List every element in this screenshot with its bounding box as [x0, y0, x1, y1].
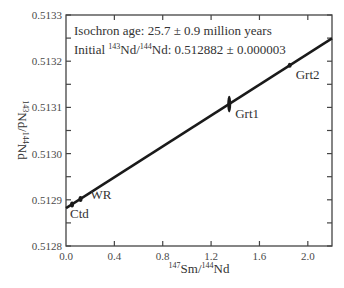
- data-point-wr: WR: [79, 187, 112, 202]
- data-point-grt2: Grt2: [288, 63, 320, 83]
- point-label: WR: [91, 187, 112, 202]
- x-axis-title: 147Sm/144Nd: [169, 261, 230, 276]
- age-annotation: Isochron age: 25.7 ± 0.9 million years: [74, 23, 272, 38]
- isochron-fit-line: [66, 38, 332, 208]
- error-ellipse: [227, 96, 231, 113]
- error-ellipse: [288, 63, 292, 68]
- point-label: Grt2: [296, 67, 320, 82]
- error-ellipse: [79, 196, 83, 202]
- y-tick-label: 0.5132: [32, 55, 62, 67]
- point-label: Grt1: [235, 106, 259, 121]
- y-tick-label: 0.5130: [32, 148, 63, 160]
- y-tick-label: 0.5133: [32, 9, 63, 21]
- isochron-line: [66, 38, 332, 208]
- x-tick-label: 0.4: [107, 250, 121, 262]
- y-tick-label: 0.5128: [32, 240, 63, 252]
- point-label: Ctd: [70, 206, 89, 221]
- y-tick-label: 0.5131: [32, 101, 62, 113]
- y-tick-label: 0.5129: [32, 194, 63, 206]
- data-points: CtdWRGrt1Grt2: [70, 63, 319, 222]
- initial-ratio-annotation: Initial 143Nd/144Nd: 0.512882 ± 0.000003: [74, 42, 286, 57]
- data-point-ctd: Ctd: [70, 201, 89, 221]
- isochron-chart: 0.00.40.81.21.62.00.51280.51290.51300.51…: [0, 0, 344, 288]
- y-axis-title: 143Nd/144Nd: [15, 100, 30, 160]
- x-tick-label: 1.6: [253, 250, 267, 262]
- data-point-grt1: Grt1: [227, 96, 259, 121]
- x-tick-label: 2.0: [301, 250, 315, 262]
